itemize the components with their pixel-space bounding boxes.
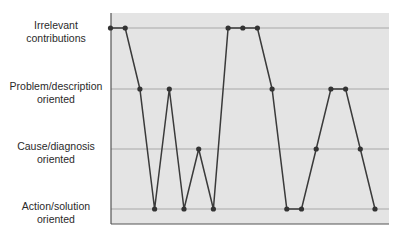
data-point — [196, 146, 201, 151]
data-point — [270, 86, 275, 91]
data-point — [255, 25, 260, 30]
data-point — [240, 25, 245, 30]
data-point — [167, 86, 172, 91]
data-point — [226, 25, 231, 30]
data-point — [328, 86, 333, 91]
data-point — [123, 25, 128, 30]
data-point — [152, 206, 157, 211]
data-point — [314, 146, 319, 151]
data-point — [137, 86, 142, 91]
line-chart — [0, 0, 395, 238]
data-point — [299, 206, 304, 211]
data-point — [358, 146, 363, 151]
data-point — [372, 206, 377, 211]
data-point — [284, 206, 289, 211]
data-point — [343, 86, 348, 91]
data-point — [181, 206, 186, 211]
data-point — [108, 25, 113, 30]
data-point — [211, 206, 216, 211]
